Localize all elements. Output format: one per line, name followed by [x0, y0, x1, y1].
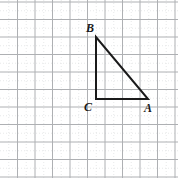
geometry-figure: B C A — [0, 0, 178, 178]
triangle-abc-outline — [96, 37, 148, 99]
vertex-label-c: C — [84, 101, 92, 113]
vertex-label-b: B — [86, 22, 94, 34]
vertex-label-a: A — [144, 102, 152, 114]
